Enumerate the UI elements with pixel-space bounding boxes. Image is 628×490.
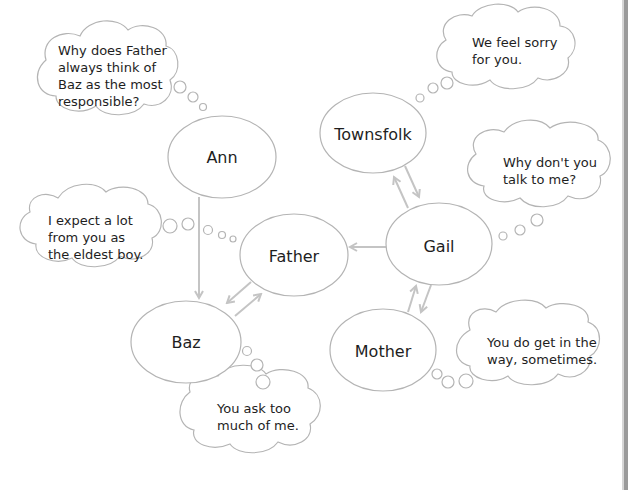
thought-text-baz: You ask too much of me. xyxy=(217,400,299,434)
thought-line: much of me. xyxy=(217,417,299,434)
node-label-townsfolk: Townsfolk xyxy=(334,125,412,144)
thought-line: Why does Father xyxy=(58,42,167,59)
thought-bubbles-mother xyxy=(432,369,473,388)
thought-line: responsible? xyxy=(58,93,167,110)
thought-line: way, sometimes. xyxy=(487,351,597,368)
arrow-father-to-baz xyxy=(227,282,251,303)
thought-line: You ask too xyxy=(217,400,299,417)
node-label-mother: Mother xyxy=(355,342,411,361)
thought-text-ann: Why does Father always think of Baz as t… xyxy=(58,42,167,110)
arrow-gail-to-mother xyxy=(421,285,431,312)
thought-line: for you. xyxy=(472,51,557,68)
thought-line: I expect a lot xyxy=(48,212,144,229)
thought-line: Baz as the most xyxy=(58,76,167,93)
thought-text-gail: Why don't you talk to me? xyxy=(503,154,597,188)
thought-line: You do get in the xyxy=(487,334,597,351)
node-label-gail: Gail xyxy=(423,237,454,256)
thought-line: always think of xyxy=(58,59,167,76)
thought-line: Why don't you xyxy=(503,154,597,171)
arrow-mother-to-gail xyxy=(408,286,416,312)
thought-text-townsfolk: We feel sorry for you. xyxy=(472,34,557,68)
thought-bubbles-townsfolk xyxy=(416,77,453,102)
thought-bubbles-gail xyxy=(499,214,543,240)
thought-line: talk to me? xyxy=(503,171,597,188)
page-edge xyxy=(624,0,628,490)
thought-text-father: I expect a lot from you as the eldest bo… xyxy=(48,212,144,263)
thought-text-mother: You do get in the way, sometimes. xyxy=(487,334,597,368)
node-label-ann: Ann xyxy=(206,148,237,167)
node-label-father: Father xyxy=(269,247,319,266)
thought-line: We feel sorry xyxy=(472,34,557,51)
arrow-baz-to-father xyxy=(235,294,261,316)
node-label-baz: Baz xyxy=(171,333,200,352)
arrow-townsfolk-to-gail xyxy=(405,166,419,197)
thought-bubbles-ann xyxy=(174,81,207,111)
arrow-gail-to-townsfolk xyxy=(394,177,408,208)
thought-line: the eldest boy. xyxy=(48,246,144,263)
thought-line: from you as xyxy=(48,229,144,246)
